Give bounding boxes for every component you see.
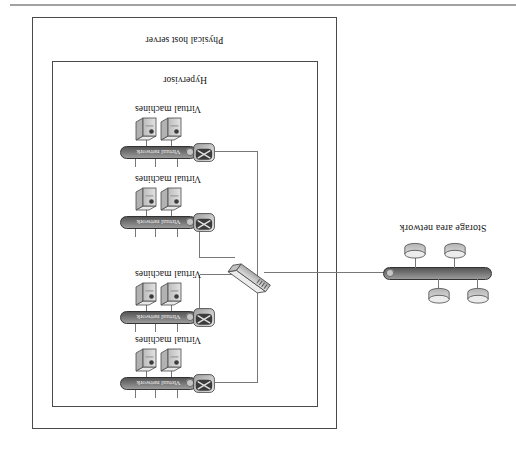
network-adapter-icon <box>193 213 215 232</box>
disk-cylinder-icon <box>428 287 450 304</box>
tower-server-icon <box>160 117 182 141</box>
virtual-network-stub-line <box>155 390 156 398</box>
virtual-network-stub-line <box>135 229 136 237</box>
network-adapter-icon <box>193 308 215 327</box>
hypervisor-label: Hypervisor <box>52 75 318 85</box>
page-rule <box>10 4 516 6</box>
tower-server-icon <box>135 187 157 211</box>
tower-server-icon <box>135 117 157 141</box>
virtual-network-stub-line <box>177 390 178 398</box>
diagram-canvas: Physical host server Hypervisor <box>0 0 516 461</box>
virtual-network-stub-line <box>155 229 156 237</box>
tower-server-icon <box>160 187 182 211</box>
network-adapter-icon <box>193 374 215 393</box>
disk-stub-line <box>454 258 455 268</box>
virtual-network-stub-line <box>135 390 136 398</box>
virtual-network-stub-line <box>177 159 178 167</box>
virtual-network-stub-line <box>177 324 178 332</box>
disk-cylinder-icon <box>467 287 489 304</box>
tower-server-icon <box>160 348 182 372</box>
virtual-network-stub-line <box>155 159 156 167</box>
physical-host-server-label: Physical host server <box>32 35 337 45</box>
virtual-machines-label: Virtual machines <box>108 335 228 345</box>
virtual-network-bus-icon: Virtual network <box>120 146 197 159</box>
virtual-network-bus-icon: Virtual network <box>120 216 197 229</box>
virtual-network-stub-line <box>177 229 178 237</box>
vm-group: Virtual network Virtual machines <box>106 335 228 398</box>
san-uplink-line <box>264 272 386 273</box>
switch-icon <box>223 254 279 298</box>
disk-cylinder-icon <box>404 242 426 259</box>
vm-group: Virtual network Virtual machines <box>106 269 228 332</box>
virtual-network-stub-line <box>135 324 136 332</box>
virtual-network-bus-icon: Virtual network <box>120 311 197 324</box>
virtual-network-label: Virtual network <box>121 311 196 323</box>
virtual-machines-label: Virtual machines <box>108 174 228 184</box>
page: Physical host server Hypervisor <box>0 0 516 461</box>
virtual-network-stub-line <box>135 159 136 167</box>
disk-stub-line <box>415 258 416 268</box>
vm-group: Virtual network Virtual machines <box>106 104 228 167</box>
virtual-network-bus-icon: Virtual network <box>120 377 197 390</box>
tower-server-icon <box>160 282 182 306</box>
tower-server-icon <box>135 348 157 372</box>
virtual-machines-label: Virtual machines <box>108 104 228 114</box>
network-adapter-icon <box>193 143 215 162</box>
virtual-machines-label: Virtual machines <box>108 269 228 279</box>
virtual-network-label: Virtual network <box>121 146 196 158</box>
virtual-network-label: Virtual network <box>121 377 196 389</box>
vm-group: Virtual network Virtual machines <box>106 174 228 237</box>
virtual-network-stub-line <box>155 324 156 332</box>
storage-area-network-label: Storage area network <box>383 223 503 234</box>
disk-cylinder-icon <box>444 242 466 259</box>
tower-server-icon <box>135 282 157 306</box>
bus-cap <box>386 269 394 277</box>
virtual-network-label: Virtual network <box>121 216 196 228</box>
